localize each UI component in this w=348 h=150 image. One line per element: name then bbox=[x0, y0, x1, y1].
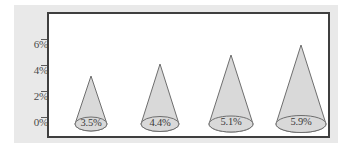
bar-value-label: 5.9% bbox=[263, 117, 339, 128]
bar-value-label: 4.4% bbox=[128, 118, 192, 129]
cone-bar-chart: 6% 4% 2% 0% 3.5% 4.4% bbox=[0, 0, 348, 150]
y-tick-label: 6% bbox=[14, 39, 48, 50]
bar-cone[interactable]: 3.5% bbox=[61, 74, 121, 136]
plot-inner: 3.5% 4.4% 5.1% bbox=[49, 14, 328, 136]
bar-cone[interactable]: 5.1% bbox=[196, 53, 266, 136]
bar-value-label: 3.5% bbox=[61, 118, 121, 129]
y-axis: 6% 4% 2% 0% bbox=[14, 5, 48, 143]
y-tick-label: 2% bbox=[14, 91, 48, 102]
bar-value-label: 5.1% bbox=[196, 117, 266, 128]
y-tick-label: 0% bbox=[14, 117, 48, 128]
bar-cone[interactable]: 4.4% bbox=[128, 62, 192, 136]
plot-area: 3.5% 4.4% 5.1% bbox=[47, 12, 330, 138]
y-tick-label: 4% bbox=[14, 65, 48, 76]
bar-cone[interactable]: 5.9% bbox=[263, 43, 339, 136]
